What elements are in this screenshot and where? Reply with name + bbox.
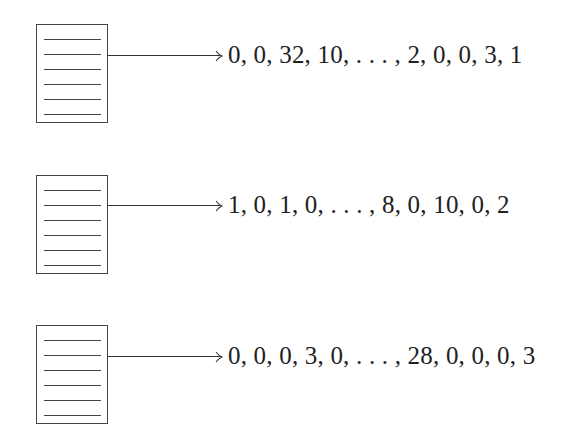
row-3: 0, 0, 0, 3, 0, . . . , 28, 0, 0, 0, 3 (0, 325, 572, 427)
text-line (44, 415, 101, 416)
arrow-icon (108, 356, 220, 357)
document-icon (36, 24, 108, 123)
text-line (44, 385, 101, 386)
text-line (44, 265, 101, 266)
text-line (44, 190, 101, 191)
row-2: 1, 0, 1, 0, . . . , 8, 0, 10, 0, 2 (0, 175, 572, 277)
arrow-icon (108, 205, 220, 206)
text-line (44, 99, 101, 100)
text-line (44, 355, 101, 356)
text-line (44, 370, 101, 371)
count-vector: 0, 0, 0, 3, 0, . . . , 28, 0, 0, 0, 3 (228, 342, 535, 370)
text-line (44, 84, 101, 85)
text-line (44, 205, 101, 206)
count-vector: 0, 0, 32, 10, . . . , 2, 0, 0, 3, 1 (228, 41, 523, 69)
count-vector: 1, 0, 1, 0, . . . , 8, 0, 10, 0, 2 (228, 191, 510, 219)
arrow-icon (108, 55, 220, 56)
text-line (44, 250, 101, 251)
text-line (44, 69, 101, 70)
text-line (44, 235, 101, 236)
document-icon (36, 325, 108, 424)
text-line (44, 39, 101, 40)
row-1: 0, 0, 32, 10, . . . , 2, 0, 0, 3, 1 (0, 24, 572, 126)
text-line (44, 340, 101, 341)
text-line (44, 400, 101, 401)
text-line (44, 114, 101, 115)
text-line (44, 54, 101, 55)
text-line (44, 220, 101, 221)
document-icon (36, 175, 108, 274)
